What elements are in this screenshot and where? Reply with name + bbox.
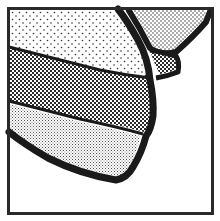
map-canvas	[0, 0, 220, 221]
map-figure	[0, 0, 220, 221]
